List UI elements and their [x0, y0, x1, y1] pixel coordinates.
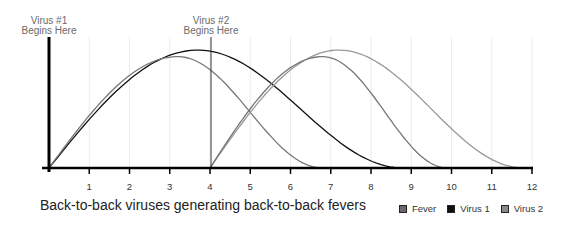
- tick-label: 6: [281, 181, 301, 192]
- tick-label: 3: [160, 181, 180, 192]
- chart-caption: Back-to-back viruses generating back-to-…: [40, 197, 366, 213]
- legend-item-virus1: Virus 1: [447, 203, 489, 214]
- tick-label: 12: [522, 181, 542, 192]
- legend-label-virus1: Virus 1: [460, 203, 489, 214]
- curve-fever: [210, 57, 448, 168]
- tick-label: 10: [442, 181, 462, 192]
- legend-swatch-virus2: [501, 205, 509, 213]
- tick-label: 8: [361, 181, 381, 192]
- curve-virus-2: [210, 50, 524, 168]
- curve-fever: [49, 57, 323, 168]
- legend-swatch-fever: [399, 205, 407, 213]
- curve-virus-1: [49, 50, 403, 168]
- curves: [49, 50, 524, 168]
- tick-label: 2: [120, 181, 140, 192]
- tick-label: 4: [200, 181, 220, 192]
- legend-item-virus2: Virus 2: [501, 203, 543, 214]
- legend-label-fever: Fever: [412, 203, 436, 214]
- legend-label-virus2: Virus 2: [514, 203, 543, 214]
- tick-label: 1: [79, 181, 99, 192]
- virus1-annotation-line2: Begins Here: [14, 26, 84, 36]
- virus2-annotation: Virus #2 Begins Here: [176, 16, 246, 36]
- legend-swatch-virus1: [447, 205, 455, 213]
- tick-label: 11: [482, 181, 502, 192]
- virus1-annotation: Virus #1 Begins Here: [14, 16, 84, 36]
- legend-item-fever: Fever: [399, 203, 436, 214]
- tick-label: 5: [240, 181, 260, 192]
- tick-label: 7: [321, 181, 341, 192]
- legend: Fever Virus 1 Virus 2: [399, 203, 554, 214]
- tick-label: 9: [401, 181, 421, 192]
- virus2-annotation-line2: Begins Here: [176, 26, 246, 36]
